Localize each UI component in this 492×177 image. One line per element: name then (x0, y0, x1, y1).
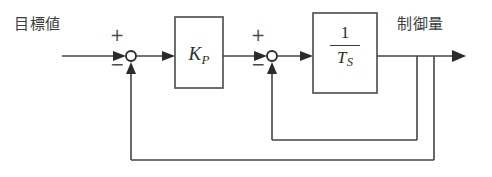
inner-junction-plus-sign: + (251, 27, 265, 44)
gain-input-arrow-icon (162, 51, 175, 61)
block-diagram-figure: 目標値 制御量 + − + − KP 1 TS (0, 0, 492, 177)
inner-summing-junction (267, 51, 277, 61)
integrator-denominator: TS (318, 48, 372, 70)
outer-feedback-arrow-icon (126, 62, 136, 74)
integrator-block-label: 1 TS (318, 24, 372, 69)
outer-junction-minus-sign: − (110, 56, 124, 73)
integrator-denominator-symbol: T (337, 48, 346, 67)
output-arrow-icon (452, 50, 466, 62)
integrator-numerator: 1 (318, 24, 372, 42)
gain-block-label: KP (175, 43, 223, 68)
outer-summing-junction (126, 51, 136, 61)
output-label-controlled-variable: 制御量 (397, 12, 444, 33)
outer-junction-plus-sign: + (110, 27, 124, 44)
gain-symbol: K (188, 43, 201, 64)
inner-junction-minus-sign: − (251, 56, 265, 73)
integrator-denominator-subscript: S (347, 55, 353, 69)
fraction-bar (330, 45, 360, 46)
gain-subscript: P (202, 52, 210, 67)
integrator-input-arrow-icon (300, 51, 313, 61)
inner-feedback-arrow-icon (267, 62, 277, 74)
input-label-target-value: 目標値 (14, 12, 61, 33)
